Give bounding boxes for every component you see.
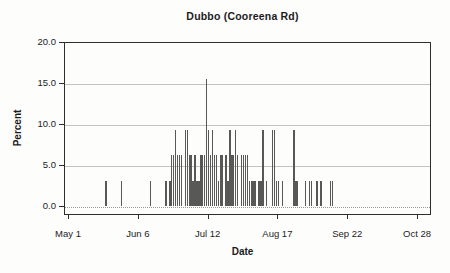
x-tick-mark <box>347 214 348 219</box>
chart-figure: Dubbo (Cooreena Rd) Percent Date 0.05.01… <box>0 0 450 273</box>
y-tick-mark <box>59 165 64 166</box>
bar <box>121 181 122 206</box>
y-tick-mark <box>59 42 64 43</box>
y-axis-label: Percent <box>12 110 23 147</box>
bar <box>332 181 333 206</box>
y-tick-label: 20.0 <box>24 37 56 47</box>
chart-title: Dubbo (Cooreena Rd) <box>64 10 421 22</box>
zero-gridline <box>65 207 430 208</box>
bar <box>221 155 222 207</box>
x-tick-label: Jun 6 <box>110 229 166 239</box>
y-tick-label: 10.0 <box>24 119 56 129</box>
x-axis-label: Date <box>64 246 421 257</box>
y-tick-label: 15.0 <box>24 78 56 88</box>
bar <box>181 155 182 207</box>
bar <box>311 181 312 206</box>
y-tick-mark <box>59 206 64 207</box>
y-tick-mark <box>59 83 64 84</box>
bar <box>316 181 317 206</box>
bar <box>320 181 321 206</box>
bar <box>278 181 279 206</box>
gridline-10 <box>65 125 430 126</box>
x-tick-mark <box>417 214 418 219</box>
bar <box>165 181 166 206</box>
bar <box>105 181 106 206</box>
x-tick-mark <box>68 214 69 219</box>
bar <box>254 181 255 206</box>
x-tick-label: Aug 17 <box>249 229 305 239</box>
bar <box>266 181 267 206</box>
y-tick-label: 5.0 <box>24 160 56 170</box>
bar <box>305 181 306 206</box>
x-tick-mark <box>138 214 139 219</box>
x-tick-label: Jul 12 <box>180 229 236 239</box>
bar <box>282 181 283 206</box>
x-tick-mark <box>277 214 278 219</box>
x-tick-label: Oct 28 <box>389 229 445 239</box>
bar <box>262 130 263 207</box>
bar <box>297 181 298 206</box>
x-tick-label: Sep 22 <box>319 229 375 239</box>
y-tick-mark <box>59 124 64 125</box>
x-tick-label: May 1 <box>40 229 96 239</box>
x-tick-mark <box>208 214 209 219</box>
bar <box>150 181 151 206</box>
bar <box>237 155 238 207</box>
gridline-15 <box>65 84 430 85</box>
plot-area <box>64 42 431 215</box>
y-tick-label: 0.0 <box>24 201 56 211</box>
